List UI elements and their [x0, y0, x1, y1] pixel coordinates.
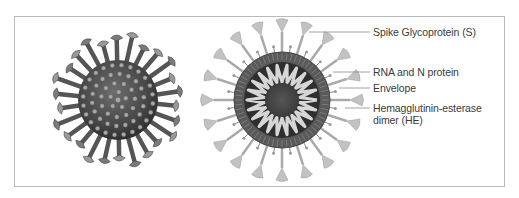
- spike-glycoprotein-head: [322, 155, 334, 168]
- surface-protein: [115, 115, 119, 119]
- spike-head: [58, 102, 64, 114]
- spike-head: [99, 158, 111, 164]
- spike-glycoprotein-head: [350, 94, 364, 106]
- spike-head: [127, 33, 139, 39]
- virus-exterior-view: [53, 33, 183, 167]
- spike-head: [173, 100, 179, 112]
- spike-glycoprotein-stalk: [261, 35, 267, 54]
- surface-protein: [108, 95, 112, 99]
- he-dimer-head: [272, 45, 275, 48]
- label-rna-n-protein: RNA and N protein: [373, 66, 459, 78]
- surface-protein: [124, 96, 128, 100]
- he-dimer-head: [305, 147, 308, 150]
- spike-glycoprotein-stalk: [261, 146, 267, 165]
- spike-glycoprotein-stalk: [217, 115, 236, 121]
- spike-glycoprotein-head: [252, 165, 263, 178]
- spike-glycoprotein-head: [214, 140, 227, 152]
- surface-protein: [134, 79, 138, 83]
- surface-protein: [104, 86, 108, 90]
- surface-protein: [84, 112, 88, 116]
- surface-protein: [123, 123, 127, 127]
- he-dimer-head: [227, 90, 230, 93]
- he-dimer-head: [305, 50, 308, 53]
- he-dimer-head: [329, 74, 332, 77]
- spike-glycoprotein-stalk: [310, 139, 322, 155]
- spike-glycoprotein-stalk: [328, 79, 347, 85]
- he-dimer-head: [329, 123, 332, 126]
- spike-glycoprotein-stalk: [328, 115, 347, 121]
- surface-protein: [131, 119, 135, 123]
- he-dimer-head: [289, 152, 292, 155]
- surface-protein: [133, 97, 137, 101]
- spike-glycoprotein-head: [201, 94, 215, 106]
- he-dimer-head: [272, 152, 275, 155]
- spike-glycoprotein-stalk: [297, 146, 303, 165]
- surface-protein: [90, 101, 94, 105]
- surface-protein: [117, 72, 121, 76]
- surface-protein: [141, 104, 145, 108]
- he-dimer-head: [256, 147, 259, 150]
- spike-stalk: [57, 113, 85, 124]
- spike-glycoprotein-stalk: [227, 128, 243, 140]
- spike-glycoprotein-head: [347, 70, 360, 81]
- spike-glycoprotein-stalk: [297, 35, 303, 54]
- spike-glycoprotein-head: [214, 48, 227, 60]
- spike-glycoprotein-head: [230, 32, 242, 45]
- spike-glycoprotein-head: [301, 22, 312, 35]
- spike-head: [111, 35, 123, 41]
- spike-head: [54, 119, 60, 130]
- label-spike-glycoprotein: Spike Glycoprotein (S): [373, 26, 476, 38]
- surface-protein: [81, 94, 85, 98]
- spike-stalk: [89, 132, 102, 159]
- spike-glycoprotein-stalk: [217, 79, 236, 85]
- spike-glycoprotein-stalk: [242, 139, 254, 155]
- spike-glycoprotein-head: [337, 48, 350, 60]
- surface-protein: [94, 83, 98, 87]
- surface-protein: [148, 83, 152, 87]
- spike-head: [176, 85, 182, 97]
- spike-stalk: [126, 36, 133, 65]
- spike-head: [81, 39, 92, 45]
- surface-protein: [136, 69, 140, 73]
- surface-protein: [122, 82, 126, 86]
- spike-glycoprotein-head: [230, 155, 242, 168]
- surface-protein: [114, 124, 118, 128]
- surface-protein: [99, 94, 103, 98]
- label-hemagglutinin-esterase: Hemagglutinin-esterase: [373, 102, 482, 114]
- label-he-dimer: dimer (HE): [373, 114, 423, 126]
- spike-head: [113, 155, 125, 161]
- surface-protein: [119, 63, 123, 67]
- spike-head: [174, 115, 180, 126]
- surface-protein: [130, 130, 134, 134]
- spike-stalk: [127, 135, 135, 164]
- he-dimer-head: [334, 107, 337, 110]
- spike-glycoprotein-stalk: [321, 60, 337, 72]
- he-dimer-head: [256, 50, 259, 53]
- spike-head: [83, 156, 94, 162]
- surface-protein: [91, 92, 95, 96]
- spike-head: [139, 45, 150, 51]
- surface-protein: [120, 105, 124, 109]
- spike-glycoprotein-stalk: [242, 45, 254, 61]
- surface-protein: [112, 81, 116, 85]
- spike-glycoprotein-head: [204, 119, 217, 130]
- surface-protein: [112, 133, 116, 137]
- he-dimer-head: [242, 60, 245, 63]
- surface-protein: [110, 63, 114, 67]
- surface-protein: [116, 98, 121, 103]
- surface-protein: [117, 90, 121, 94]
- spike-glycoprotein-head: [347, 119, 360, 130]
- spike-head: [53, 72, 59, 83]
- he-dimer-head: [289, 45, 292, 48]
- he-dimer-head: [232, 123, 235, 126]
- surface-protein: [126, 74, 130, 78]
- surface-protein: [129, 88, 133, 92]
- spike-stalk: [56, 78, 84, 88]
- spike-glycoprotein-head: [337, 140, 350, 152]
- surface-protein: [100, 77, 104, 81]
- surface-protein: [89, 120, 93, 124]
- spike-glycoprotein-head: [276, 19, 288, 33]
- surface-protein: [128, 65, 132, 69]
- surface-protein: [142, 95, 146, 99]
- surface-protein: [139, 86, 143, 90]
